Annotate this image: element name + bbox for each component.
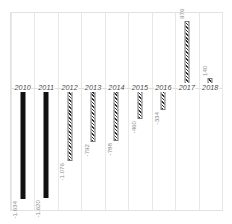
bar-category: -3342016 (152, 13, 175, 210)
x-axis-tick-label: 2012 (61, 83, 78, 92)
x-axis-tick-label: 2018 (202, 83, 219, 92)
bar-category: 9762017 (175, 13, 198, 210)
bar (137, 88, 142, 119)
bar (67, 88, 72, 161)
x-axis-tick-label: 2013 (84, 83, 101, 92)
x-axis-tick-label: 2016 (155, 83, 172, 92)
bar-value-label: -792 (83, 144, 90, 156)
x-axis-tick-label: 2014 (108, 83, 125, 92)
bar-value-label: -460 (130, 121, 137, 133)
bar (91, 88, 96, 142)
x-axis-tick-label: 2010 (14, 83, 31, 92)
bar-value-label: 140 (202, 66, 209, 76)
bar-category: -7922013 (81, 13, 104, 210)
bar-category: -1.6202011 (34, 13, 57, 210)
bar-value-label: -1.620 (34, 200, 41, 218)
bar-category: -4602015 (128, 13, 151, 210)
bar-value-label: -1.634 (10, 201, 17, 219)
x-axis-tick-label: 2011 (38, 83, 55, 92)
bar-category: -1.6342010 (11, 13, 34, 210)
gridline (222, 13, 223, 210)
bar-value-label: -788 (107, 143, 114, 155)
bar-category: -1.0762012 (58, 13, 81, 210)
bar-value-label: 976 (178, 9, 185, 19)
x-axis-tick-label: 2015 (131, 83, 148, 92)
bar (184, 21, 189, 87)
bar-category: -7882014 (105, 13, 128, 210)
bar (114, 88, 119, 142)
plot-area: -1.6342010-1.6202011-1.0762012-7922013-7… (11, 13, 222, 210)
bar-value-label: -334 (154, 112, 161, 124)
bar (20, 88, 25, 199)
bar-value-label: -1.076 (57, 163, 64, 181)
bar-chart: -1.6342010-1.6202011-1.0762012-7922013-7… (0, 0, 232, 224)
bar-category: 1402018 (199, 13, 222, 210)
x-axis-tick-label: 2017 (178, 83, 195, 92)
bar (44, 88, 49, 198)
